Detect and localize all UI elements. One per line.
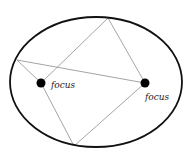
ray-left-point-to-right-focus — [17, 60, 145, 83]
ray-top-to-right-focus — [108, 18, 145, 83]
ray-bottom-to-right-focus — [74, 83, 145, 146]
left-focus-dot — [37, 79, 46, 88]
ray-left-focus-to-top — [41, 18, 108, 83]
ellipse-diagram — [0, 0, 187, 155]
right-focus-dot — [141, 79, 150, 88]
ellipse-outline — [10, 17, 182, 147]
left-focus-label: focus — [51, 81, 75, 90]
right-focus-label: focus — [145, 93, 169, 102]
ray-left-focus-to-bottom — [41, 83, 74, 146]
